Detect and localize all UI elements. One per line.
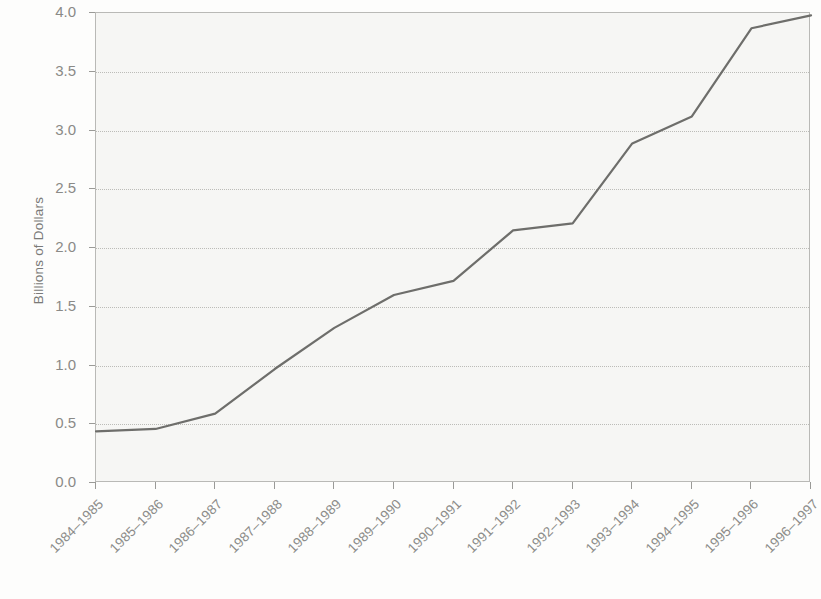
y-axis-tick-label: 2.5 — [30, 179, 76, 196]
y-axis-tick-label: 2.0 — [30, 238, 76, 255]
y-axis-tick-label: 4.0 — [30, 3, 76, 20]
plot-area — [95, 12, 810, 482]
x-axis-tick-mark — [572, 482, 573, 489]
x-axis-tick-mark — [333, 482, 334, 489]
x-axis-tick-label: 1996–1997 — [669, 496, 821, 599]
x-axis-tick-mark — [95, 482, 96, 489]
x-axis-tick-mark — [631, 482, 632, 489]
x-axis-tick-label: 1988–1989 — [193, 496, 345, 599]
x-axis-tick-label: 1991–1992 — [371, 496, 523, 599]
x-axis-tick-label: 1986–1987 — [73, 496, 225, 599]
x-axis-tick-label: 1995–1996 — [610, 496, 762, 599]
y-axis-tick-label: 3.0 — [30, 121, 76, 138]
y-axis-tick-labels: 0.00.51.01.52.02.53.03.54.0 — [30, 12, 76, 482]
x-axis-tick-mark — [750, 482, 751, 489]
y-axis-tick-label: 0.0 — [30, 473, 76, 490]
x-axis-tick-label: 1992–1993 — [431, 496, 583, 599]
x-axis-tick-label: 1989–1990 — [252, 496, 404, 599]
x-axis-tick-mark — [214, 482, 215, 489]
x-axis-tick-mark — [512, 482, 513, 489]
x-axis-tick-mark — [453, 482, 454, 489]
y-axis-tick-label: 1.0 — [30, 356, 76, 373]
y-axis-tick-label: 0.5 — [30, 414, 76, 431]
x-axis-tick-mark — [691, 482, 692, 489]
x-axis-tick-marks — [95, 482, 810, 490]
chart-figure: Billions of Dollars 0.00.51.01.52.02.53.… — [0, 0, 821, 599]
x-axis-tick-label: 1994–1995 — [550, 496, 702, 599]
x-axis-tick-label: 1990–1991 — [312, 496, 464, 599]
x-axis-tick-label: 1987–1988 — [133, 496, 285, 599]
x-axis-tick-mark — [274, 482, 275, 489]
x-axis-tick-label: 1984–1985 — [0, 496, 106, 599]
y-axis-tick-label: 3.5 — [30, 62, 76, 79]
line-series — [96, 13, 811, 483]
x-axis-tick-mark — [155, 482, 156, 489]
y-axis-tick-label: 1.5 — [30, 297, 76, 314]
x-axis-tick-mark — [810, 482, 811, 489]
x-axis-tick-mark — [393, 482, 394, 489]
x-axis-tick-label: 1985–1986 — [14, 496, 166, 599]
x-axis-tick-label: 1993–1994 — [491, 496, 643, 599]
